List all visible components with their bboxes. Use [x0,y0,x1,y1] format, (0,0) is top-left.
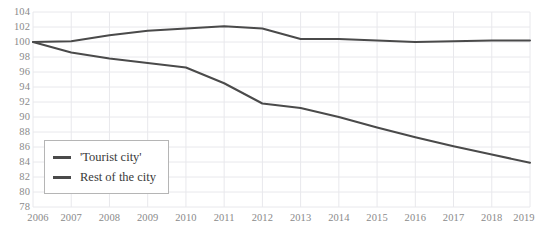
x-axis-tick-label: 2008 [99,213,120,224]
y-axis-tick-label: 100 [2,37,30,48]
x-axis-tick-label: 2007 [61,213,82,224]
legend-item-label: Rest of the city [80,171,156,184]
y-axis-tick-label: 86 [2,142,30,153]
y-axis-tick-label: 92 [2,97,30,108]
x-axis-tick-label: 2010 [175,213,196,224]
x-axis-tick-label: 2014 [328,213,349,224]
y-axis-tick-label: 80 [2,187,30,198]
line-chart: 7880828486889092949698100102104 20062007… [0,0,535,240]
y-axis-tick-label: 102 [2,22,30,33]
x-axis-tick-label: 2015 [366,213,387,224]
y-axis-tick-label: 104 [2,7,30,18]
y-axis-tick-label: 78 [2,202,30,213]
y-axis-tick-label: 98 [2,52,30,63]
x-axis-tick-label: 2012 [252,213,273,224]
y-axis-tick-label: 84 [2,157,30,168]
series-line-1 [33,26,530,42]
x-axis-tick-label: 2017 [443,213,464,224]
x-axis-tick-label: 2006 [27,213,48,224]
chart-legend: 'Tourist city'Rest of the city [44,140,169,194]
y-axis-tick-label: 82 [2,172,30,183]
x-axis-tick-label: 2018 [481,213,502,224]
y-axis-tick-label: 94 [2,82,30,93]
y-axis-tick-label: 90 [2,112,30,123]
legend-swatch-icon [53,176,71,179]
x-axis-tick-label: 2019 [513,213,534,224]
x-axis-tick-label: 2016 [405,213,426,224]
x-axis-tick-label: 2013 [290,213,311,224]
legend-item-2: Rest of the city [53,167,156,187]
x-axis-tick-label: 2009 [137,213,158,224]
x-axis: 2006200720082009201020112012201320142015… [33,213,530,229]
legend-swatch-icon [53,156,71,159]
y-axis-tick-label: 96 [2,67,30,78]
y-axis: 7880828486889092949698100102104 [0,12,30,207]
y-axis-tick-label: 88 [2,127,30,138]
x-axis-tick-label: 2011 [214,213,235,224]
legend-item-label: 'Tourist city' [80,151,142,164]
legend-item-1: 'Tourist city' [53,147,156,167]
